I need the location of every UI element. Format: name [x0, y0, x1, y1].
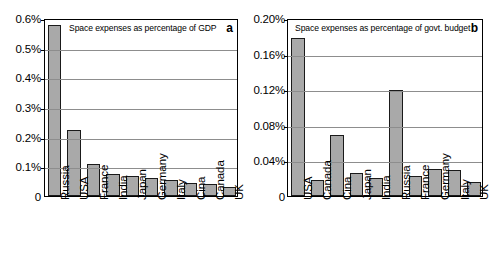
- y-axis-tick: [284, 162, 288, 163]
- gridline: [45, 139, 237, 140]
- x-axis-category-label: USA: [302, 177, 314, 200]
- y-axis-tick: [41, 79, 45, 80]
- gridline: [45, 109, 237, 110]
- x-axis-category-label: India: [380, 176, 392, 200]
- x-axis-category-label: Russia: [59, 165, 71, 200]
- x-axis-category-label: Cina: [341, 177, 353, 200]
- y-axis-labels-a: 00.1%0.2%0.3%0.4%0.5%0.6%: [0, 0, 44, 271]
- x-axis-category-label: France: [419, 165, 431, 200]
- gridline: [288, 162, 482, 163]
- y-axis-tick-label: 0: [35, 192, 41, 203]
- chart-panel-b: 00.04%0.08%0.12%0.16%0.20% Space expense…: [244, 0, 488, 271]
- y-axis-tick-label: 0.08%: [253, 120, 285, 131]
- gridline: [288, 127, 482, 128]
- y-axis-tick: [284, 20, 288, 21]
- x-axis-category-label: USA: [78, 177, 90, 200]
- x-axis-category-label: Canada: [214, 160, 226, 200]
- gridline: [288, 91, 482, 92]
- y-axis-tick-label: 0.5%: [16, 43, 41, 54]
- gridline: [45, 50, 237, 51]
- gridline: [45, 79, 237, 80]
- y-axis-tick: [41, 20, 45, 21]
- y-axis-tick: [284, 127, 288, 128]
- x-axis-category-label: Italy: [459, 179, 471, 200]
- x-axis-category-label: Cina: [195, 177, 207, 200]
- x-axis-category-label: Japan: [361, 169, 373, 200]
- y-axis-tick: [41, 109, 45, 110]
- chart-panel-a: 00.1%0.2%0.3%0.4%0.5%0.6% Space expenses…: [0, 0, 244, 271]
- y-axis-tick-label: 0.1%: [16, 162, 41, 173]
- bar-group-b: [288, 20, 482, 196]
- x-axis-category-label: Japan: [136, 169, 148, 200]
- y-axis-labels-b: 00.04%0.08%0.12%0.16%0.20%: [244, 0, 288, 271]
- x-axis-category-label: Germany: [156, 153, 168, 200]
- x-axis-category-label: Germany: [439, 153, 451, 200]
- y-axis-tick-label: 0.04%: [253, 156, 285, 167]
- y-axis-tick: [41, 50, 45, 51]
- y-axis-tick: [41, 139, 45, 140]
- y-axis-tick: [284, 56, 288, 57]
- y-axis-tick-label: 0.12%: [253, 85, 285, 96]
- y-axis-tick: [284, 91, 288, 92]
- y-axis-tick-label: 0.6%: [16, 14, 41, 25]
- y-axis-tick-label: 0.3%: [16, 103, 41, 114]
- y-axis-tick-label: 0.16%: [253, 49, 285, 60]
- y-axis-tick-label: 0.20%: [253, 14, 285, 25]
- y-axis-tick-label: 0.4%: [16, 73, 41, 84]
- y-axis-tick-label: 0.2%: [16, 132, 41, 143]
- x-axis-category-label: UK: [478, 184, 490, 200]
- y-axis-tick-label: 0: [279, 192, 285, 203]
- x-axis-category-label: Italy: [175, 179, 187, 200]
- x-axis-category-label: Canada: [321, 160, 333, 200]
- x-axis-category-label: India: [117, 176, 129, 200]
- plot-area-b: Space expenses as percentage of govt. bu…: [287, 19, 483, 197]
- gridline: [288, 56, 482, 57]
- x-axis-category-label: France: [98, 165, 110, 200]
- y-axis-tick: [41, 168, 45, 169]
- bar: [291, 38, 305, 196]
- x-axis-category-label: Russia: [400, 165, 412, 200]
